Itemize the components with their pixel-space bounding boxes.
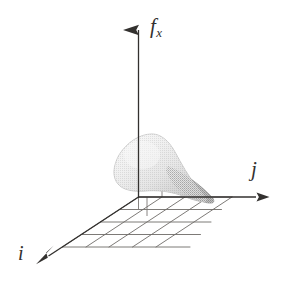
figure-3d-surface-plot: fx j i xyxy=(0,0,287,286)
plot-canvas xyxy=(0,0,287,286)
vertical-axis-label: fx xyxy=(150,16,162,39)
surface-highlight xyxy=(124,141,160,169)
vertical-axis-label-text: f xyxy=(150,14,156,38)
surface-mound xyxy=(114,134,214,203)
j-axis-arrowhead xyxy=(257,192,270,201)
i-axis-label: i xyxy=(18,243,24,263)
j-axis-label: j xyxy=(251,159,257,180)
vertical-axis-label-subscript: x xyxy=(156,25,162,40)
